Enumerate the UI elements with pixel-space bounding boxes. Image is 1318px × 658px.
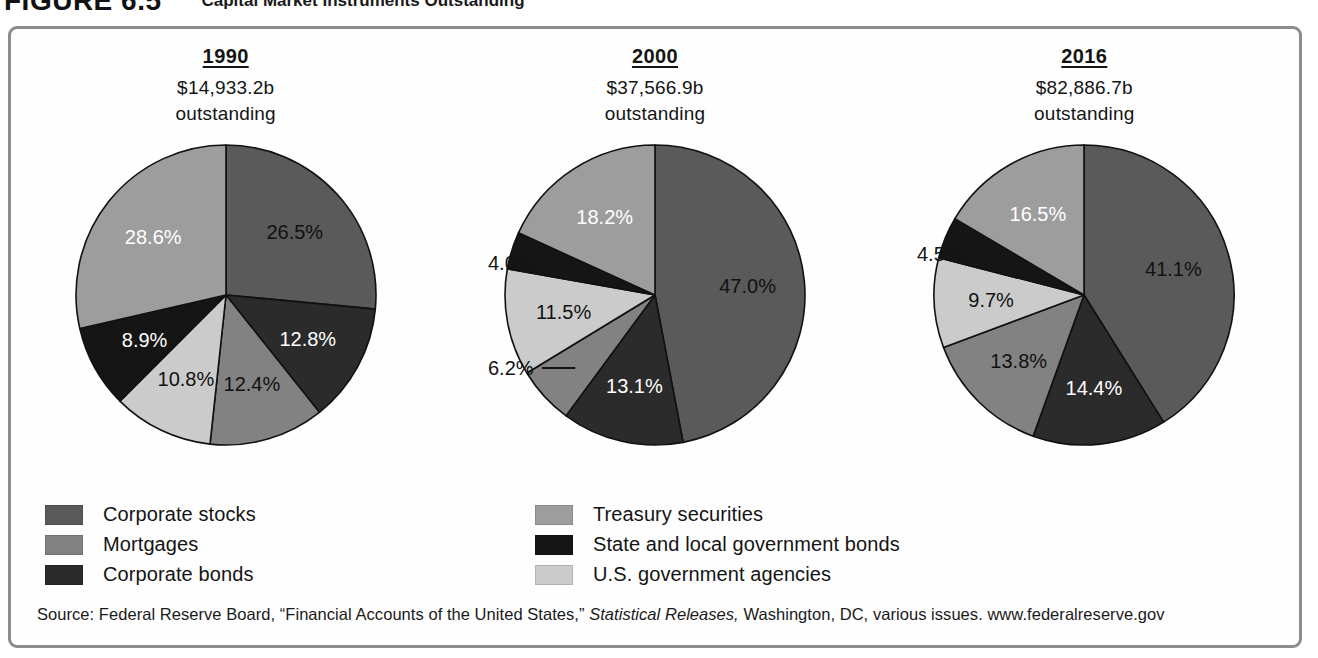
- legend-swatch-icon: [535, 505, 573, 525]
- pie-slice-label: 41.1%: [1145, 258, 1202, 280]
- pie-svg-container: 47.0%13.1%11.5%18.2%6.2%4.0%: [480, 135, 830, 457]
- pie-slice-label: 26.5%: [266, 221, 323, 243]
- pie-slice-label: 12.4%: [223, 373, 280, 395]
- pie-slice-label: 13.1%: [606, 375, 663, 397]
- pie-year-label: 2000: [632, 45, 678, 68]
- legend-column-right: Treasury securitiesState and local gover…: [535, 495, 1155, 599]
- source-prefix: Source: Federal Reserve Board, “Financia…: [37, 605, 589, 623]
- pie-slice-label: 13.8%: [991, 350, 1048, 372]
- pie-year-label: 2016: [1061, 45, 1107, 68]
- legend-swatch-icon: [45, 535, 83, 555]
- pie-slice-label: 18.2%: [576, 206, 633, 228]
- pie-svg-container: 26.5%12.8%12.4%10.8%8.9%28.6%: [51, 135, 401, 457]
- pie-chart-row: 1990$14,933.2boutstanding26.5%12.8%12.4%…: [11, 33, 1299, 495]
- pie-outstanding-label: outstanding: [605, 103, 705, 125]
- legend-swatch-icon: [45, 505, 83, 525]
- pie-callout-label: 4.0%: [488, 252, 534, 274]
- pie-svg-container: 41.1%14.4%13.8%9.7%16.5%4.5%: [909, 135, 1259, 457]
- pie-chart-2016: 2016$82,886.7boutstanding41.1%14.4%13.8%…: [870, 33, 1299, 495]
- pie-slice-label: 11.5%: [536, 301, 591, 323]
- legend-label: U.S. government agencies: [593, 563, 831, 586]
- pie-callout-label: 4.5%: [917, 243, 963, 265]
- pie-slice-label: 14.4%: [1066, 377, 1123, 399]
- pie-callout-label: 6.2%: [488, 357, 534, 379]
- pie-slice-label: 9.7%: [969, 289, 1015, 311]
- legend-item: Corporate stocks: [45, 503, 515, 526]
- legend-item: State and local government bonds: [535, 533, 1155, 556]
- pie-amount-label: $14,933.2b: [177, 77, 274, 99]
- legend-label: Corporate stocks: [103, 503, 256, 526]
- pie-slice-label: 28.6%: [124, 226, 181, 248]
- figure-header: FIGURE 6.5 Capital Market Instruments Ou…: [0, 0, 1318, 16]
- pie-outstanding-label: outstanding: [1034, 103, 1134, 125]
- figure-frame: 1990$14,933.2boutstanding26.5%12.8%12.4%…: [8, 26, 1302, 648]
- legend-label: State and local government bonds: [593, 533, 900, 556]
- legend-item: Corporate bonds: [45, 563, 515, 586]
- legend-swatch-icon: [535, 535, 573, 555]
- legend-column-left: Corporate stocksMortgagesCorporate bonds: [45, 495, 515, 599]
- pie-slice-label: 10.8%: [157, 368, 214, 390]
- pie-slice-label: 16.5%: [1010, 203, 1067, 225]
- pie-slice-label: 47.0%: [719, 275, 776, 297]
- figure-number: FIGURE 6.5: [4, 0, 161, 17]
- source-italic: Statistical Releases,: [589, 605, 739, 623]
- pie-slice-label: 8.9%: [121, 329, 167, 351]
- legend-item: Treasury securities: [535, 503, 1155, 526]
- pie-chart-1990: 1990$14,933.2boutstanding26.5%12.8%12.4%…: [11, 33, 440, 495]
- source-suffix: Washington, DC, various issues. www.fede…: [739, 605, 1165, 623]
- legend-swatch-icon: [45, 565, 83, 585]
- legend-label: Treasury securities: [593, 503, 763, 526]
- pie-year-label: 1990: [203, 45, 249, 68]
- legend-item: Mortgages: [45, 533, 515, 556]
- pie-slice-label: 12.8%: [279, 328, 336, 350]
- pie-amount-label: $82,886.7b: [1036, 77, 1133, 99]
- pie-chart-2000: 2000$37,566.9boutstanding47.0%13.1%11.5%…: [440, 33, 869, 495]
- chart-legend: Corporate stocksMortgagesCorporate bonds…: [11, 495, 1299, 599]
- pie-amount-label: $37,566.9b: [606, 77, 703, 99]
- legend-label: Corporate bonds: [103, 563, 253, 586]
- legend-label: Mortgages: [103, 533, 198, 556]
- figure-title: Capital Market Instruments Outstanding: [201, 0, 524, 11]
- pie-outstanding-label: outstanding: [175, 103, 275, 125]
- source-note: Source: Federal Reserve Board, “Financia…: [37, 605, 1287, 624]
- legend-swatch-icon: [535, 565, 573, 585]
- legend-item: U.S. government agencies: [535, 563, 1155, 586]
